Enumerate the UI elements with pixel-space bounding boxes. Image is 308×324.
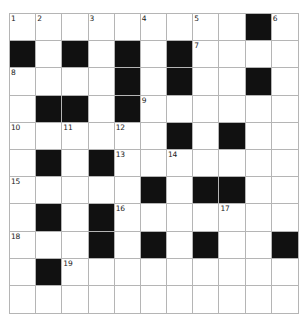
crossword-entry-cell[interactable] bbox=[89, 68, 115, 95]
crossword-entry-cell[interactable] bbox=[167, 232, 193, 259]
crossword-entry-cell[interactable]: 18 bbox=[10, 232, 36, 259]
crossword-entry-cell[interactable] bbox=[193, 259, 219, 286]
crossword-entry-cell[interactable] bbox=[10, 204, 36, 231]
crossword-entry-cell[interactable]: 16 bbox=[115, 204, 141, 231]
crossword-entry-cell[interactable] bbox=[36, 41, 62, 68]
crossword-entry-cell[interactable] bbox=[89, 286, 115, 313]
crossword-entry-cell[interactable] bbox=[141, 123, 167, 150]
crossword-entry-cell[interactable] bbox=[62, 177, 88, 204]
crossword-entry-cell[interactable] bbox=[36, 232, 62, 259]
crossword-entry-cell[interactable] bbox=[62, 286, 88, 313]
crossword-entry-cell[interactable] bbox=[193, 123, 219, 150]
crossword-entry-cell[interactable] bbox=[62, 14, 88, 41]
crossword-entry-cell[interactable]: 12 bbox=[115, 123, 141, 150]
crossword-block-cell bbox=[115, 41, 141, 68]
crossword-entry-cell[interactable]: 14 bbox=[167, 150, 193, 177]
crossword-entry-cell[interactable] bbox=[246, 150, 272, 177]
crossword-entry-cell[interactable] bbox=[10, 259, 36, 286]
crossword-entry-cell[interactable] bbox=[193, 286, 219, 313]
crossword-entry-cell[interactable]: 4 bbox=[141, 14, 167, 41]
crossword-entry-cell[interactable]: 6 bbox=[272, 14, 298, 41]
crossword-entry-cell[interactable] bbox=[246, 123, 272, 150]
crossword-entry-cell[interactable] bbox=[272, 259, 298, 286]
crossword-entry-cell[interactable] bbox=[193, 204, 219, 231]
crossword-entry-cell[interactable] bbox=[167, 14, 193, 41]
crossword-entry-cell[interactable] bbox=[89, 96, 115, 123]
crossword-entry-cell[interactable] bbox=[115, 14, 141, 41]
crossword-entry-cell[interactable] bbox=[89, 41, 115, 68]
crossword-entry-cell[interactable] bbox=[10, 96, 36, 123]
crossword-entry-cell[interactable] bbox=[246, 232, 272, 259]
crossword-entry-cell[interactable] bbox=[219, 232, 245, 259]
crossword-entry-cell[interactable] bbox=[36, 177, 62, 204]
crossword-entry-cell[interactable]: 10 bbox=[10, 123, 36, 150]
clue-number: 12 bbox=[116, 123, 125, 132]
crossword-block-cell bbox=[193, 177, 219, 204]
crossword-entry-cell[interactable] bbox=[115, 286, 141, 313]
crossword-grid[interactable]: 12345678910111213141516171819 bbox=[9, 13, 299, 314]
crossword-entry-cell[interactable]: 8 bbox=[10, 68, 36, 95]
crossword-entry-cell[interactable] bbox=[219, 286, 245, 313]
crossword-entry-cell[interactable] bbox=[115, 232, 141, 259]
crossword-entry-cell[interactable] bbox=[272, 177, 298, 204]
crossword-entry-cell[interactable] bbox=[272, 286, 298, 313]
crossword-entry-cell[interactable] bbox=[10, 150, 36, 177]
crossword-entry-cell[interactable] bbox=[219, 41, 245, 68]
crossword-entry-cell[interactable] bbox=[141, 204, 167, 231]
crossword-entry-cell[interactable] bbox=[272, 204, 298, 231]
crossword-entry-cell[interactable] bbox=[62, 150, 88, 177]
crossword-entry-cell[interactable] bbox=[246, 286, 272, 313]
crossword-entry-cell[interactable] bbox=[89, 123, 115, 150]
crossword-entry-cell[interactable] bbox=[219, 150, 245, 177]
crossword-entry-cell[interactable] bbox=[36, 123, 62, 150]
crossword-entry-cell[interactable] bbox=[36, 286, 62, 313]
crossword-entry-cell[interactable] bbox=[141, 259, 167, 286]
crossword-entry-cell[interactable] bbox=[141, 68, 167, 95]
crossword-entry-cell[interactable] bbox=[246, 259, 272, 286]
crossword-entry-cell[interactable] bbox=[167, 96, 193, 123]
crossword-entry-cell[interactable]: 9 bbox=[141, 96, 167, 123]
crossword-entry-cell[interactable]: 5 bbox=[193, 14, 219, 41]
crossword-entry-cell[interactable] bbox=[246, 41, 272, 68]
crossword-entry-cell[interactable] bbox=[246, 204, 272, 231]
crossword-entry-cell[interactable]: 1 bbox=[10, 14, 36, 41]
crossword-entry-cell[interactable] bbox=[115, 259, 141, 286]
crossword-entry-cell[interactable] bbox=[193, 68, 219, 95]
crossword-entry-cell[interactable] bbox=[272, 41, 298, 68]
crossword-entry-cell[interactable] bbox=[115, 177, 141, 204]
crossword-entry-cell[interactable] bbox=[219, 96, 245, 123]
crossword-entry-cell[interactable] bbox=[10, 286, 36, 313]
crossword-entry-cell[interactable]: 2 bbox=[36, 14, 62, 41]
crossword-entry-cell[interactable]: 17 bbox=[219, 204, 245, 231]
crossword-entry-cell[interactable] bbox=[219, 259, 245, 286]
crossword-entry-cell[interactable]: 13 bbox=[115, 150, 141, 177]
crossword-entry-cell[interactable]: 7 bbox=[193, 41, 219, 68]
crossword-entry-cell[interactable] bbox=[246, 96, 272, 123]
crossword-entry-cell[interactable] bbox=[246, 177, 272, 204]
crossword-entry-cell[interactable] bbox=[62, 232, 88, 259]
crossword-entry-cell[interactable] bbox=[272, 123, 298, 150]
crossword-entry-cell[interactable] bbox=[167, 177, 193, 204]
crossword-entry-cell[interactable]: 19 bbox=[62, 259, 88, 286]
crossword-entry-cell[interactable] bbox=[89, 177, 115, 204]
crossword-entry-cell[interactable] bbox=[62, 204, 88, 231]
crossword-entry-cell[interactable] bbox=[219, 68, 245, 95]
crossword-entry-cell[interactable]: 3 bbox=[89, 14, 115, 41]
crossword-entry-cell[interactable] bbox=[89, 259, 115, 286]
crossword-entry-cell[interactable] bbox=[193, 150, 219, 177]
crossword-entry-cell[interactable] bbox=[167, 259, 193, 286]
crossword-entry-cell[interactable] bbox=[62, 68, 88, 95]
crossword-entry-cell[interactable] bbox=[167, 204, 193, 231]
crossword-entry-cell[interactable] bbox=[167, 286, 193, 313]
crossword-entry-cell[interactable]: 15 bbox=[10, 177, 36, 204]
crossword-entry-cell[interactable] bbox=[272, 68, 298, 95]
crossword-entry-cell[interactable] bbox=[193, 96, 219, 123]
crossword-entry-cell[interactable]: 11 bbox=[62, 123, 88, 150]
crossword-entry-cell[interactable] bbox=[219, 14, 245, 41]
crossword-entry-cell[interactable] bbox=[141, 286, 167, 313]
crossword-entry-cell[interactable] bbox=[36, 68, 62, 95]
crossword-entry-cell[interactable] bbox=[141, 41, 167, 68]
crossword-entry-cell[interactable] bbox=[141, 150, 167, 177]
crossword-entry-cell[interactable] bbox=[272, 150, 298, 177]
crossword-entry-cell[interactable] bbox=[272, 96, 298, 123]
